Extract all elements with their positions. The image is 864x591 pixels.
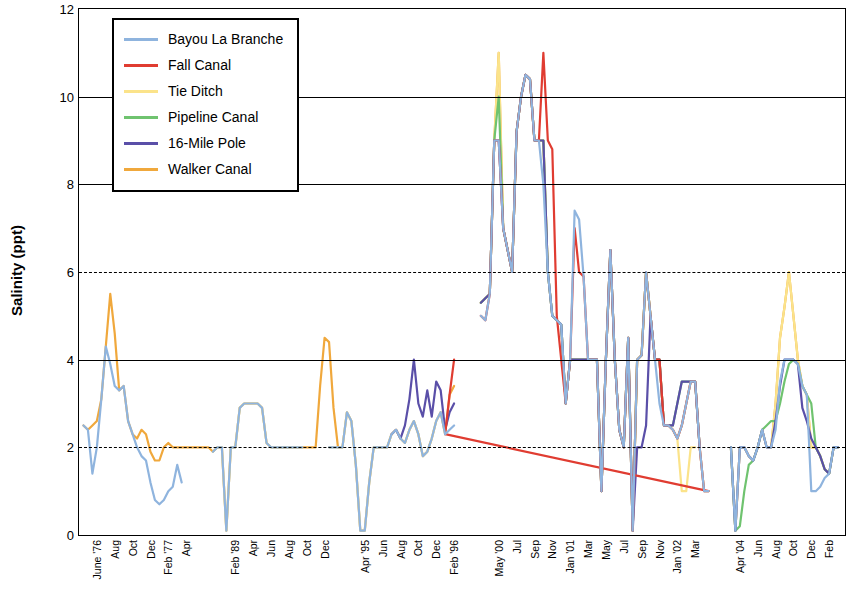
series-line <box>731 272 838 531</box>
legend-item: Pipeline Canal <box>124 104 283 130</box>
legend-swatch-icon <box>124 64 158 67</box>
x-tick-label: Apr <box>247 540 259 556</box>
legend-label: Bayou La Branche <box>168 31 283 47</box>
x-tick-label: Jul <box>618 540 630 553</box>
x-tick-label: Feb '89 <box>229 540 241 575</box>
series-line <box>481 53 709 531</box>
x-tick-label: Dec <box>319 540 331 559</box>
x-tick-label: Jan '02 <box>671 540 683 574</box>
series-line <box>481 75 700 531</box>
chart-container: Salinity (ppt) 024681012 Bayou La Branch… <box>0 0 864 591</box>
series-line <box>329 412 441 530</box>
x-tick-label: Aug <box>109 540 121 559</box>
y-tick-label: 4 <box>67 352 74 367</box>
chart-legend: Bayou La BrancheFall CanalTie DitchPipel… <box>112 18 299 192</box>
x-tick-label: Jun <box>377 540 389 557</box>
legend-label: Pipeline Canal <box>168 109 258 125</box>
legend-label: Fall Canal <box>168 57 231 73</box>
series-line <box>445 53 708 531</box>
x-tick-label: Nov <box>654 540 666 559</box>
y-tick-label: 0 <box>67 528 74 543</box>
x-tick-label: Apr <box>180 540 192 556</box>
x-tick-label: Feb <box>823 540 835 558</box>
legend-label: 16-Mile Pole <box>168 135 246 151</box>
x-tick-label: Feb '77 <box>162 540 174 575</box>
x-tick-label: Dec <box>805 540 817 559</box>
x-tick-label: Aug <box>283 540 295 559</box>
x-axis-ticks: June '76AugOctDecFeb '77AprFeb '89AprJun… <box>78 540 846 590</box>
x-tick-label: Jun <box>752 540 764 557</box>
legend-item: 16-Mile Pole <box>124 130 283 156</box>
legend-item: Bayou La Branche <box>124 26 283 52</box>
legend-swatch-icon <box>124 168 158 171</box>
x-tick-label: Dec <box>145 540 157 559</box>
legend-item: Walker Canal <box>124 156 283 182</box>
x-tick-label: Jan '01 <box>564 540 576 574</box>
x-tick-label: Aug <box>395 540 407 559</box>
series-line <box>329 412 454 530</box>
gridline <box>79 272 845 273</box>
series-line <box>481 53 695 531</box>
x-tick-label: Mar <box>582 540 594 558</box>
gridline <box>79 360 845 361</box>
y-axis-title: Salinity (ppt) <box>2 0 30 540</box>
series-line <box>213 404 302 531</box>
x-tick-label: Sep <box>636 540 648 559</box>
x-tick-label: May <box>600 540 612 560</box>
legend-item: Fall Canal <box>124 52 283 78</box>
series-line <box>481 75 700 531</box>
y-axis-title-text: Salinity (ppt) <box>8 225 25 316</box>
legend-label: Walker Canal <box>168 161 252 177</box>
x-tick-label: May '00 <box>493 540 505 576</box>
y-tick-label: 8 <box>67 177 74 192</box>
y-tick-label: 2 <box>67 440 74 455</box>
x-tick-label: Jun <box>265 540 277 557</box>
x-tick-label: Jul <box>511 540 523 553</box>
y-tick-label: 6 <box>67 265 74 280</box>
y-axis-ticks: 024681012 <box>40 8 78 536</box>
x-tick-label: Oct <box>787 540 799 556</box>
y-tick-label: 10 <box>60 89 74 104</box>
series-line <box>731 360 838 531</box>
legend-swatch-icon <box>124 116 158 119</box>
x-tick-label: Oct <box>412 540 424 556</box>
x-tick-label: Sep <box>529 540 541 559</box>
legend-label: Tie Ditch <box>168 83 223 99</box>
x-tick-label: Aug <box>770 540 782 559</box>
series-line <box>481 75 709 531</box>
legend-swatch-icon <box>124 38 158 41</box>
x-tick-label: Nov <box>546 540 558 559</box>
x-tick-label: June '76 <box>91 540 103 579</box>
gridline <box>79 447 845 448</box>
legend-swatch-icon <box>124 142 158 145</box>
legend-swatch-icon <box>124 90 158 93</box>
series-line <box>83 347 181 505</box>
x-tick-label: Mar <box>689 540 701 558</box>
x-tick-label: Apr '95 <box>359 540 371 573</box>
x-tick-label: Oct <box>301 540 313 556</box>
x-tick-label: Apr '04 <box>734 540 746 573</box>
x-tick-label: Feb '96 <box>448 540 460 575</box>
series-line <box>83 294 454 531</box>
y-tick-label: 12 <box>60 2 74 17</box>
x-tick-label: Oct <box>127 540 139 556</box>
legend-item: Tie Ditch <box>124 78 283 104</box>
x-tick-label: Dec <box>430 540 442 559</box>
